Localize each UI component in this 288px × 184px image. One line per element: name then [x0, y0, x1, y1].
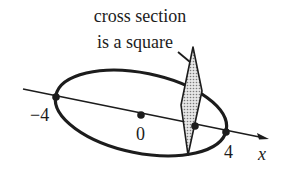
tick-label-4: 4 [224, 143, 233, 161]
solid-cross-section-diagram: cross section is a square −4 0 4 x [0, 0, 288, 184]
x-axis-label: x [258, 145, 266, 163]
diagram-canvas [0, 0, 288, 184]
point-0 [137, 111, 145, 119]
square-cross-section [181, 47, 202, 155]
tick-label-0: 0 [136, 125, 145, 143]
point-4 [222, 128, 230, 136]
point-cross-section [191, 122, 199, 130]
tick-label-neg4: −4 [30, 106, 49, 124]
point-neg4 [52, 93, 60, 101]
caption-line-2: is a square [55, 32, 215, 52]
caption-line-1: cross section [60, 6, 220, 26]
x-axis-arrowhead [257, 133, 269, 140]
caption-leader-line [178, 52, 190, 62]
